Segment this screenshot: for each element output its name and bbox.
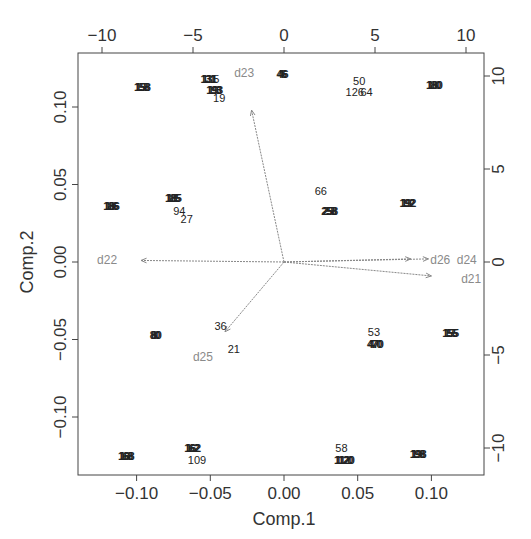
point-label: 470470 <box>367 338 384 350</box>
point-text: 36 <box>214 320 226 332</box>
point-text: 64 <box>360 86 372 98</box>
point-text: 198 <box>411 448 426 460</box>
plot-frame <box>78 53 484 475</box>
right-tick-label: 0 <box>489 257 508 266</box>
right-tick-label: 5 <box>489 164 508 173</box>
point-label: 21 <box>228 343 240 355</box>
point-label: 8080 <box>150 329 162 341</box>
x-tick-label: −0.05 <box>189 484 232 503</box>
point-text: 1120 <box>336 454 355 466</box>
loading-label: d23 <box>234 66 254 80</box>
loading-label: d25 <box>193 350 213 364</box>
top-tick-label: 10 <box>457 26 476 45</box>
point-label: 58 <box>335 442 347 454</box>
point-text: 185 <box>167 192 182 204</box>
point-text: 58 <box>335 442 347 454</box>
point-label: 4646 <box>276 68 288 80</box>
point-label: 258258 <box>321 205 338 217</box>
point-text: 186 <box>105 200 120 212</box>
point-text: 258 <box>323 205 338 217</box>
point-label: 109 <box>188 454 206 466</box>
point-text: 21 <box>228 343 240 355</box>
y-tick-label: −0.05 <box>51 318 70 361</box>
y-tick-label: 0.00 <box>51 245 70 278</box>
y-tick-label: −0.10 <box>51 395 70 438</box>
biplot-chart: −0.10−0.050.000.050.10−0.10−0.050.000.05… <box>0 0 531 539</box>
point-label: 192192 <box>399 197 416 209</box>
x-tick-label: 0.05 <box>341 484 374 503</box>
point-text: 19 <box>213 92 225 104</box>
point-text: 470 <box>368 338 383 350</box>
right-tick-label: 10 <box>489 67 508 86</box>
point-label: 27 <box>181 213 193 225</box>
point-label: 185185 <box>165 192 182 204</box>
point-label: 162162 <box>184 442 201 454</box>
loading-arrow-d23 <box>252 110 284 262</box>
score-points: 1581581311315464619319319501266418018018… <box>103 68 459 466</box>
point-label: 155155 <box>442 327 459 339</box>
point-text: 27 <box>181 213 193 225</box>
point-text: 158 <box>136 81 151 93</box>
y-axis-title: Comp.2 <box>17 230 37 293</box>
top-tick-label: 5 <box>370 26 379 45</box>
point-text: 155 <box>444 327 459 339</box>
point-text: 80 <box>151 329 162 341</box>
y-tick-label: 0.05 <box>51 168 70 201</box>
point-text: 162 <box>186 442 201 454</box>
point-label: 11201120 <box>334 454 355 466</box>
x-axis-title: Comp.1 <box>252 509 315 529</box>
loading-arrow-d25 <box>225 262 284 332</box>
point-text: 46 <box>278 68 289 80</box>
loading-arrow-d22 <box>141 260 284 262</box>
point-label: 158158 <box>134 81 151 93</box>
point-text: 168 <box>119 450 134 462</box>
point-text: 192 <box>401 197 416 209</box>
right-tick-label: −5 <box>489 345 508 364</box>
point-label: 198198 <box>410 448 427 460</box>
loading-label: d24 <box>457 253 477 267</box>
point-text: 180 <box>427 79 442 91</box>
loading-label: d22 <box>97 253 117 267</box>
top-tick-label: 0 <box>279 26 288 45</box>
point-text: 53 <box>368 326 380 338</box>
x-tick-label: 0.00 <box>267 484 300 503</box>
point-label: 180180 <box>426 79 443 91</box>
x-tick-label: −0.10 <box>115 484 158 503</box>
point-label: 64 <box>360 86 372 98</box>
right-tick-label: −10 <box>489 434 508 463</box>
point-label: 53 <box>368 326 380 338</box>
loading-label: d26 <box>430 253 450 267</box>
y-tick-label: 0.10 <box>51 90 70 123</box>
loading-label: d21 <box>461 272 481 286</box>
point-label: 19 <box>213 92 225 104</box>
point-label: 168168 <box>118 450 135 462</box>
top-tick-label: −10 <box>88 26 117 45</box>
loading-arrow-d21 <box>284 262 431 276</box>
point-label: 36 <box>214 320 226 332</box>
point-label: 66 <box>315 185 327 197</box>
point-text: 109 <box>188 454 206 466</box>
point-label: 186186 <box>103 200 120 212</box>
loading-labels: d21d22d23d24d25d26 <box>97 66 481 364</box>
point-text: 66 <box>315 185 327 197</box>
loading-arrow-d26 <box>284 259 411 262</box>
x-tick-label: 0.10 <box>415 484 448 503</box>
top-tick-label: −5 <box>183 26 202 45</box>
